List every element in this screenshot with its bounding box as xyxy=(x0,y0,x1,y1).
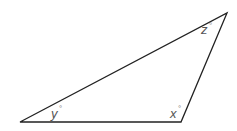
degree-symbol: ° xyxy=(178,104,181,113)
degree-symbol: ° xyxy=(209,21,212,30)
angle-label-x: x ° xyxy=(169,104,181,121)
angle-variable-y: y xyxy=(50,106,59,121)
angle-variable-z: z xyxy=(200,22,208,37)
triangle-diagram: y ° x ° z ° xyxy=(0,0,237,131)
angle-label-z: z ° xyxy=(200,21,212,37)
angle-label-y: y ° xyxy=(50,104,62,121)
angle-variable-x: x xyxy=(169,106,177,121)
degree-symbol: ° xyxy=(59,104,62,113)
